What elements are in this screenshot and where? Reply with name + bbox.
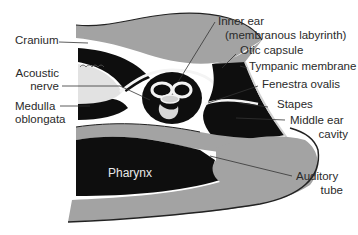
label-medulla-2: oblongata: [15, 113, 66, 126]
label-medulla-1: Medulla: [15, 100, 55, 113]
label-tympanic-membrane: Tympanic membrane: [249, 60, 356, 73]
label-middle-ear-2: cavity: [290, 128, 348, 141]
ear-anatomy-diagram: Cranium Acoustic nerve Medulla oblongata…: [0, 0, 358, 235]
label-middle-ear-1: Middle ear: [290, 114, 344, 127]
label-acoustic-nerve-2: nerve: [14, 80, 59, 93]
label-pharynx: Pharynx: [108, 167, 152, 180]
label-stapes: Stapes: [277, 98, 313, 111]
label-inner-ear-2: (membranous labyrinth): [225, 29, 346, 42]
label-auditory-tube-2: tube: [296, 184, 343, 197]
label-otic-capsule: Otic capsule: [240, 44, 303, 57]
label-cranium: Cranium: [15, 34, 58, 47]
label-inner-ear-1: Inner ear: [218, 15, 264, 28]
label-fenestra-ovalis: Fenestra ovalis: [262, 78, 340, 91]
label-acoustic-nerve-1: Acoustic: [14, 67, 59, 80]
label-auditory-tube-1: Auditory: [296, 170, 338, 183]
